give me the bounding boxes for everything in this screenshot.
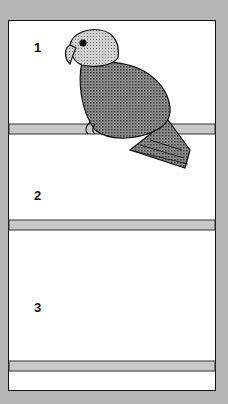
bird-label-2: 2 bbox=[34, 188, 41, 203]
bird-label-3: 3 bbox=[34, 300, 41, 315]
perch-2 bbox=[9, 220, 215, 230]
bird-1-lovebird bbox=[66, 30, 191, 168]
bird-label-1: 1 bbox=[34, 40, 41, 55]
perch-3 bbox=[9, 361, 215, 371]
